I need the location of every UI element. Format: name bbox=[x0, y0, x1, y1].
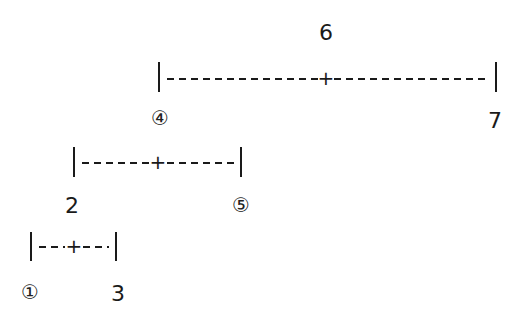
top-left-label: ④ bbox=[151, 107, 169, 129]
top-right-dashes bbox=[334, 78, 489, 80]
bottom-left-dashes bbox=[39, 246, 65, 248]
bottom-left-label: ① bbox=[21, 281, 39, 303]
top-plus-marker: + bbox=[318, 68, 335, 88]
top-right-label: 7 bbox=[488, 110, 502, 132]
top-right-bar bbox=[495, 62, 497, 92]
bottom-right-dashes bbox=[83, 246, 109, 248]
middle-left-dashes bbox=[82, 162, 149, 164]
middle-right-label: ⑤ bbox=[232, 194, 250, 216]
bottom-left-bar bbox=[30, 232, 32, 261]
top-center-label: 6 bbox=[319, 22, 333, 44]
middle-right-bar bbox=[240, 147, 242, 177]
middle-left-label: 2 bbox=[65, 195, 79, 217]
bottom-right-bar bbox=[115, 232, 117, 261]
middle-left-bar bbox=[73, 147, 75, 177]
bottom-right-label: 3 bbox=[111, 283, 125, 305]
top-left-bar bbox=[158, 62, 160, 92]
top-left-dashes bbox=[167, 78, 319, 80]
middle-plus-marker: + bbox=[150, 152, 167, 172]
bottom-plus-marker: + bbox=[66, 236, 83, 256]
middle-right-dashes bbox=[167, 162, 234, 164]
